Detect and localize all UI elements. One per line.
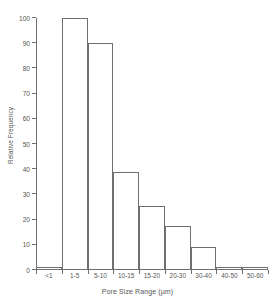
x-tick-label-group: <11-55-1010-1515-2020-3030-4040-5050-60 — [36, 272, 268, 284]
x-tick-label: 15-20 — [144, 272, 160, 279]
y-tick-label: 100 — [19, 14, 30, 21]
x-tick-label: 10-15 — [118, 272, 134, 279]
y-tick-label: 60 — [23, 115, 30, 122]
x-tick-label: 1-5 — [70, 272, 79, 279]
y-tick-label: 90 — [23, 39, 30, 46]
bar — [165, 226, 191, 270]
y-tick-label: 20 — [23, 216, 30, 223]
bar — [88, 43, 114, 270]
x-tick — [268, 270, 269, 274]
y-tick: 50 — [32, 143, 36, 144]
bar — [216, 267, 242, 270]
bar — [191, 247, 217, 270]
histogram-figure: Relative Frequency 010203040506070809010… — [0, 0, 275, 308]
x-tick-label: 50-60 — [247, 272, 263, 279]
y-tick: 20 — [32, 219, 36, 220]
bar — [242, 267, 268, 270]
y-tick: 70 — [32, 93, 36, 94]
y-tick: 40 — [32, 168, 36, 169]
bar — [36, 267, 62, 270]
bar — [62, 18, 88, 270]
y-tick-label: 40 — [23, 165, 30, 172]
x-tick-label: <1 — [45, 272, 52, 279]
x-tick-label: 40-50 — [221, 272, 237, 279]
x-tick-label: 30-40 — [195, 272, 211, 279]
x-tick-label: 20-30 — [170, 272, 186, 279]
y-axis-title: Relative Frequency — [2, 0, 18, 270]
y-tick: 80 — [32, 67, 36, 68]
y-tick-label: 10 — [23, 241, 30, 248]
y-tick-label: 30 — [23, 190, 30, 197]
bar — [113, 172, 139, 270]
y-tick-label: 50 — [23, 140, 30, 147]
y-tick-label: 80 — [23, 64, 30, 71]
bar — [139, 206, 165, 270]
plot-area: 0102030405060708090100 — [36, 18, 268, 270]
y-tick: 90 — [32, 42, 36, 43]
y-tick: 30 — [32, 193, 36, 194]
y-axis-title-text: Relative Frequency — [7, 107, 14, 164]
y-tick-label: 0 — [26, 266, 30, 273]
x-tick-label: 5-10 — [94, 272, 107, 279]
y-axis-line — [36, 18, 37, 270]
x-axis-title: Pore Size Range (µm) — [0, 288, 275, 295]
y-tick: 100 — [32, 17, 36, 18]
y-tick-label: 70 — [23, 90, 30, 97]
y-tick: 10 — [32, 244, 36, 245]
y-tick: 60 — [32, 118, 36, 119]
